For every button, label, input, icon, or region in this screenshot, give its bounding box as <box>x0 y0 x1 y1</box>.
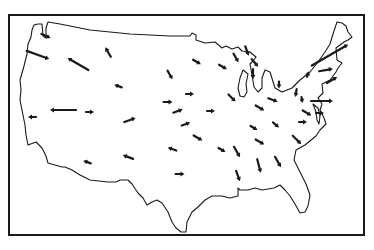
vector-arrow-icon <box>293 89 299 98</box>
vector-arrow-icon <box>291 134 303 146</box>
us-vector-field-map <box>0 0 374 250</box>
vector-arrow-icon <box>66 56 89 72</box>
vector-arrow-icon <box>181 120 191 128</box>
vector-arrow-icon <box>28 115 36 120</box>
vector-arrow-icon <box>172 107 183 115</box>
vector-arrow-icon <box>277 82 282 89</box>
vector-arrow-icon <box>254 103 265 112</box>
vector-arrow-icon <box>103 46 113 58</box>
vector-arrow-icon <box>186 92 194 97</box>
lake-michigan <box>238 70 248 97</box>
vector-arrow-icon <box>217 146 226 154</box>
vector-arrow-icon <box>164 100 173 105</box>
vector-arrow-icon <box>82 158 91 165</box>
vector-arrow-icon <box>218 63 228 72</box>
vector-arrow-icon <box>86 110 94 115</box>
vector-arrow-icon <box>319 66 334 73</box>
vector-arrow-icon <box>299 97 305 104</box>
vector-arrow-icon <box>192 133 203 142</box>
vector-arrow-icon <box>192 58 202 67</box>
vector-arrow-icon <box>311 99 333 104</box>
vector-arrow-icon <box>176 172 185 177</box>
vector-arrow-icon <box>165 69 174 80</box>
continental-us-outline <box>20 22 352 232</box>
vector-arrow-icon <box>249 124 258 132</box>
vector-arrow-icon <box>26 49 50 62</box>
vector-arrow-icon <box>299 120 307 125</box>
vector-arrow-icon <box>267 96 278 104</box>
vector-arrow-icon <box>254 137 265 146</box>
vector-arrow-icon <box>167 145 177 153</box>
vector-arrow-icon <box>50 108 76 113</box>
vector-arrow-icon <box>124 116 137 125</box>
vector-arrow-icon <box>255 159 263 174</box>
vector-arrow-icon <box>227 93 237 103</box>
vector-arrow-icon <box>231 52 240 63</box>
vector-arrow-icon <box>113 82 122 89</box>
vector-arrow-icon <box>207 109 215 114</box>
vector-arrow-icon <box>232 146 242 159</box>
vector-arrows <box>26 32 349 182</box>
vector-arrow-icon <box>234 170 242 182</box>
vector-arrow-icon <box>273 156 283 169</box>
vector-arrow-icon <box>301 108 312 117</box>
map-frame <box>9 15 364 235</box>
vector-arrow-icon <box>311 42 350 67</box>
vector-arrow-icon <box>122 153 134 161</box>
vector-arrow-icon <box>271 121 280 130</box>
